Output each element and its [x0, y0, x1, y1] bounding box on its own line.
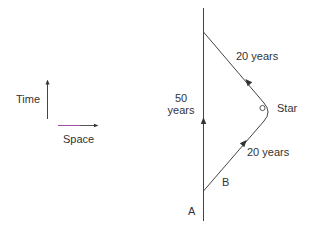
outbound-duration-label: 20 years	[247, 146, 289, 158]
return-arrow-icon	[243, 77, 252, 86]
observer-b-label: B	[222, 176, 229, 188]
space-label: Space	[63, 133, 94, 145]
spacetime-diagram: Time Space 50 years 20 years 20 years St…	[0, 0, 311, 232]
time-label: Time	[16, 93, 40, 105]
star-label: Star	[277, 102, 297, 114]
diagram-canvas	[0, 0, 311, 232]
return-duration-label: 20 years	[236, 50, 278, 62]
stay-duration-label: 50 years	[166, 92, 196, 116]
stay-duration-number: 50	[166, 92, 196, 104]
observer-a-label: A	[188, 205, 195, 217]
star-marker-icon	[260, 105, 265, 110]
stay-duration-unit: years	[166, 104, 196, 116]
worldline-a-arrow-icon	[201, 117, 206, 124]
